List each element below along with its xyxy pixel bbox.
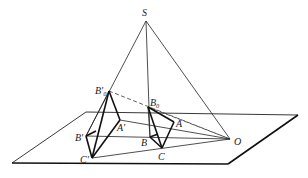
line-Aprime-O [120, 120, 230, 139]
edge-B0prime-Aprime [109, 91, 120, 120]
label-B0: B₀ [150, 97, 160, 108]
edge-A-C [162, 122, 174, 148]
label-O: O [234, 136, 241, 147]
edge-B0prime-Cprime [92, 91, 109, 158]
label-B-prime: B′ [75, 132, 84, 143]
label-A: A [175, 118, 183, 129]
label-C: C [158, 151, 165, 162]
label-C-prime: C′ [80, 154, 90, 165]
projection-diagram: S B′₀ B₀ A′ A B′ B C′ C O [0, 0, 308, 178]
plane-front-edge [12, 163, 228, 164]
label-A-prime: A′ [116, 122, 126, 133]
label-S: S [142, 7, 147, 18]
point-labels: S B′₀ B₀ A′ A B′ B C′ C O [75, 7, 241, 165]
ray-S-B [146, 21, 150, 137]
figure-prime [86, 91, 120, 158]
label-B0-prime: B′₀ [95, 85, 107, 96]
ray-S-O [146, 21, 230, 139]
vertical-Bprime-B0prime [86, 91, 109, 136]
tick-B [150, 134, 158, 137]
label-B: B [141, 137, 147, 148]
ground-plane [12, 112, 298, 164]
projection-rays [86, 21, 230, 139]
